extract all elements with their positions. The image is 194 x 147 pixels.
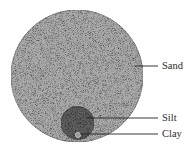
clay-particle	[75, 132, 80, 137]
particle-diagram	[0, 0, 194, 147]
silt-label: Silt	[162, 113, 177, 124]
clay-label: Clay	[162, 129, 182, 140]
sand-label: Sand	[162, 61, 183, 72]
